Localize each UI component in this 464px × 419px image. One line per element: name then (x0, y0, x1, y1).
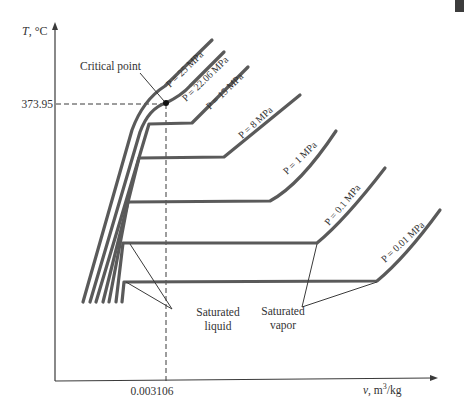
critical-point-label: Critical point (80, 60, 142, 73)
y-axis-label: T, °C (22, 24, 48, 38)
saturated-liquid-label-line1: Saturated (196, 306, 240, 318)
saturated-vapor-leader-1 (302, 244, 317, 307)
tv-diagram: T, °C v, m3/kg 373.95 0.003106 P = 25 MP… (0, 0, 464, 419)
saturated-vapor-leader-2 (302, 282, 377, 307)
saturated-vapor-label-line2: vapor (270, 319, 296, 332)
saturated-liquid-label-line2: liquid (205, 320, 232, 333)
critical-volume-tick-label: 0.003106 (130, 385, 173, 397)
x-axis (55, 378, 432, 381)
saturated-liquid-leader-2 (126, 282, 172, 309)
x-axis-label: v, m3/kg (363, 382, 402, 397)
saturated-vapor-label-line1: Saturated (261, 305, 305, 317)
x-axis-arrow-icon (430, 375, 438, 381)
isobar-22.06mpa (90, 52, 224, 302)
isobar-label-1mpa: P = 1 MPa (281, 139, 319, 177)
y-axis-arrow-icon (52, 22, 58, 30)
critical-temperature-tick-label: 373.95 (21, 98, 53, 110)
